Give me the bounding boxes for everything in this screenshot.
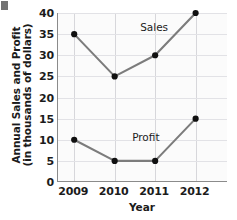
y-tick-label: 15: [34, 112, 54, 125]
series-annotation-sales: Sales: [140, 21, 168, 33]
data-point-sales-2010: [112, 73, 118, 79]
x-axis-title: Year: [57, 201, 227, 213]
data-point-profit-2009: [71, 137, 77, 143]
x-tick-label: 2011: [139, 185, 169, 198]
y-axis-tick-labels: 0510152025303540: [34, 0, 54, 220]
plot-area: [57, 13, 227, 182]
data-point-profit-2011: [152, 158, 158, 164]
corner-artifact: [1, 1, 8, 10]
x-tick-label: 2010: [99, 185, 129, 198]
series-layer: [58, 13, 228, 182]
series-annotation-profit: Profit: [132, 131, 159, 143]
data-point-profit-2010: [112, 158, 118, 164]
y-axis-title-line-2: (in thousands of dollars): [22, 23, 33, 166]
x-tick-label: 2009: [58, 185, 88, 198]
y-tick-label: 10: [34, 133, 54, 146]
y-tick-label: 0: [34, 176, 54, 189]
y-tick-label: 20: [34, 91, 54, 104]
y-tick-label: 30: [34, 49, 54, 62]
y-tick-label: 40: [34, 7, 54, 20]
data-point-sales-2012: [193, 10, 199, 16]
line-chart: Annual Sales and Profit (in thousands of…: [0, 0, 237, 220]
y-tick-label: 25: [34, 70, 54, 83]
data-point-profit-2012: [193, 116, 199, 122]
x-axis-tick-labels: 2009201020112012: [57, 185, 227, 201]
data-point-sales-2011: [152, 52, 158, 58]
series-line-sales: [74, 13, 195, 76]
x-tick-label: 2012: [180, 185, 210, 198]
data-point-sales-2009: [71, 31, 77, 37]
y-tick-label: 5: [34, 154, 54, 167]
y-tick-label: 35: [34, 28, 54, 41]
